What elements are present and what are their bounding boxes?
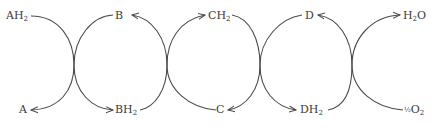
arc-dh2-to-d: [318, 15, 352, 110]
label-bh2-base: BH: [115, 103, 133, 116]
label-ah2: AH2: [6, 10, 28, 23]
label-half-o2-sub: 2: [420, 109, 424, 117]
arc-bh2-to-b: [132, 15, 167, 110]
label-bh2: BH2: [115, 104, 137, 117]
label-dh2: DH2: [300, 104, 323, 117]
label-a: A: [19, 104, 27, 115]
label-b: B: [115, 10, 123, 21]
label-half-o2-base: O: [411, 103, 420, 116]
label-d-base: D: [305, 9, 314, 22]
label-dh2-base: DH: [300, 103, 318, 116]
label-c-base: C: [216, 103, 224, 116]
label-ah2-sub: 2: [24, 15, 28, 23]
arc-ah2-to-bh2: [31, 16, 113, 110]
arc-ch2-to-c: [228, 15, 260, 110]
label-d: D: [305, 10, 314, 21]
arc-b-to-a: [31, 15, 113, 110]
label-a-base: A: [19, 103, 27, 116]
label-half-o2: ½O2: [404, 104, 424, 117]
label-bh2-sub: 2: [133, 109, 137, 117]
label-c: C: [216, 104, 224, 115]
arc-half-o2-to-h2o: [352, 15, 403, 110]
label-half-o2-frac: ½: [404, 107, 411, 114]
label-b-base: B: [115, 9, 123, 22]
label-h2o: H2O: [403, 10, 426, 23]
arc-d-to-dh2: [260, 15, 302, 110]
label-h2o-tail: O: [417, 9, 426, 22]
arc-c-to-ch2: [167, 15, 216, 110]
label-ah2-base: AH: [6, 9, 24, 22]
label-ch2-base: CH: [208, 9, 226, 22]
label-ch2: CH2: [208, 10, 230, 23]
label-ch2-sub: 2: [226, 15, 230, 23]
label-dh2-sub: 2: [318, 109, 322, 117]
label-h2o-base: H: [403, 9, 413, 22]
